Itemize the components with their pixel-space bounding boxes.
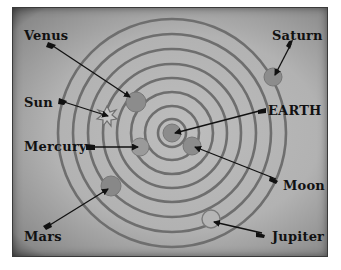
label-saturn: Saturn [272,29,323,42]
earth-icon [163,124,181,142]
jupiter-arrow [214,222,262,233]
label-sun: Sun [24,96,53,109]
venus-icon [126,92,146,112]
label-earth: EARTH [268,104,322,117]
jupiter-icon [202,210,220,228]
moon-icon [183,137,201,155]
sun-arrow [61,101,108,116]
label-mars: Mars [24,230,62,243]
label-venus: Venus [24,29,68,42]
earth-arrow [175,110,263,133]
label-mercury: Mercury [24,140,87,153]
label-jupiter: Jupiter [272,230,324,243]
mars-icon [101,176,121,196]
saturn-arrow [275,44,291,75]
saturn-icon [264,68,282,86]
label-moon: Moon [283,179,325,192]
